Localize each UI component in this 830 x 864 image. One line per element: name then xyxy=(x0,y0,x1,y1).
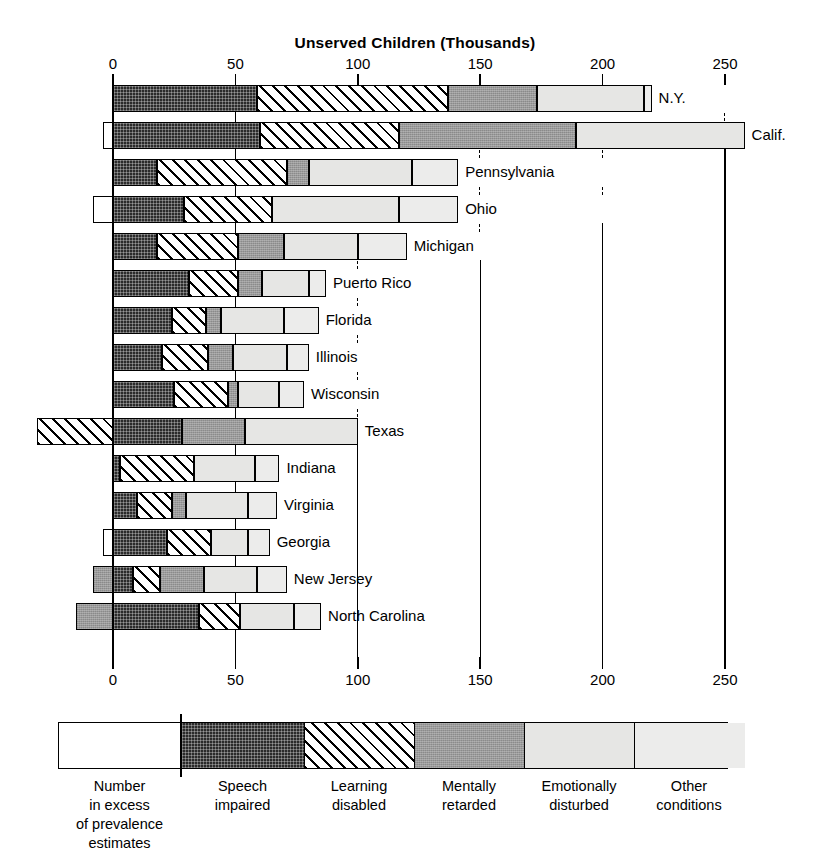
bar-segment-excess xyxy=(93,196,113,223)
bottom-axis-tick xyxy=(724,657,726,669)
bottom-axis-tick xyxy=(112,657,114,669)
legend-zero-divider xyxy=(180,714,182,777)
legend-label-speech: Speechimpaired xyxy=(181,777,304,815)
bar-segment-speech-impaired xyxy=(113,529,167,556)
bar-segment-other-conditions xyxy=(257,566,286,593)
bar-segment-learning-disabled xyxy=(199,603,241,630)
bar-row xyxy=(0,566,830,593)
bar-segment-speech-impaired xyxy=(113,122,260,149)
legend-label-other: Otherconditions xyxy=(634,777,744,815)
bar-segment-speech-impaired xyxy=(113,381,174,408)
gridline-dash xyxy=(479,150,480,158)
bar-segment-speech-impaired xyxy=(113,159,157,186)
gridline-dash xyxy=(602,187,603,195)
bar-segment-mentally-retarded xyxy=(206,307,221,334)
bottom-axis-tick xyxy=(357,657,359,669)
bar-segment-speech-impaired xyxy=(113,196,184,223)
legend-label-line: of prevalence xyxy=(58,815,181,834)
bar-segment-emotionally-disturbed xyxy=(537,85,645,112)
bar-segment-learning-disabled xyxy=(167,529,211,556)
top-axis-tick-label: 50 xyxy=(227,55,244,72)
legend-label-line: impaired xyxy=(181,796,304,815)
bar-segment-speech-impaired xyxy=(113,85,257,112)
top-axis-tick-label: 150 xyxy=(468,55,493,72)
bar-row xyxy=(0,85,830,112)
bar-segment-emotionally-disturbed xyxy=(576,122,745,149)
bar-segment-other-conditions xyxy=(644,85,651,112)
bar-segment-learning-disabled xyxy=(172,307,206,334)
bar-segment-mentally-retarded xyxy=(238,233,285,260)
top-axis-tick-label: 0 xyxy=(109,55,117,72)
top-axis-tick-label: 100 xyxy=(345,55,370,72)
bottom-axis-tick-label: 150 xyxy=(468,671,493,688)
gridline-dash xyxy=(357,261,358,269)
legend-swatch-mental xyxy=(415,723,525,768)
bar-row xyxy=(0,122,830,149)
bar-segment-mentally-retarded xyxy=(238,270,262,297)
bar-segment-excess xyxy=(103,529,113,556)
bar-segment-mentally-retarded xyxy=(208,344,232,371)
legend-label-line: retarded xyxy=(414,796,524,815)
bottom-axis-tick-label: 200 xyxy=(590,671,615,688)
bar-segment-emotionally-disturbed xyxy=(194,455,255,482)
gridline-dash xyxy=(357,372,358,380)
bar-row-label: Calif. xyxy=(752,126,786,143)
bar-segment-emotionally-disturbed xyxy=(186,492,247,519)
bar-segment-speech-impaired xyxy=(113,455,120,482)
bar-segment-emotionally-disturbed xyxy=(211,529,248,556)
legend-label-line: Mentally xyxy=(414,777,524,796)
bar-segment-emotionally-disturbed xyxy=(238,381,280,408)
legend-label-line: Emotionally xyxy=(524,777,634,796)
bar-segment-learning-disabled xyxy=(157,159,287,186)
top-axis-tick xyxy=(479,74,481,85)
bar-segment-mentally-retarded xyxy=(182,418,246,445)
bar-segment-other-conditions xyxy=(279,381,303,408)
bar-segment-learning-disabled xyxy=(184,196,272,223)
bar-segment-other-conditions xyxy=(287,344,309,371)
bar-segment-learning-disabled xyxy=(133,566,160,593)
bar-segment-emotionally-disturbed xyxy=(221,307,285,334)
bottom-axis-tick-label: 0 xyxy=(109,671,117,688)
bar-segment-learning-disabled xyxy=(260,122,400,149)
gridline-dash xyxy=(602,150,603,158)
bar-segment-learning-disabled xyxy=(120,455,193,482)
legend-swatch-emotional xyxy=(525,723,635,768)
bar-row-label: North Carolina xyxy=(328,607,425,624)
bar-segment-other-conditions xyxy=(358,233,407,260)
bar-segment-learning-disabled xyxy=(189,270,238,297)
gridline-dash xyxy=(724,113,725,121)
bar-row xyxy=(0,529,830,556)
bar-row xyxy=(0,270,830,297)
gridline-dash xyxy=(479,224,480,232)
bar-segment-speech-impaired xyxy=(113,233,157,260)
bar-row-label: N.Y. xyxy=(659,89,686,106)
bar-segment-emotionally-disturbed xyxy=(204,566,258,593)
bar-segment-emotionally-disturbed xyxy=(262,270,309,297)
bar-segment-mentally-retarded xyxy=(399,122,575,149)
bar-segment-mentally-retarded xyxy=(172,492,187,519)
legend-swatch-bar xyxy=(58,722,728,769)
bar-segment-other-conditions xyxy=(248,492,277,519)
bar-segment-other-conditions xyxy=(399,196,458,223)
gridline-dash xyxy=(479,187,480,195)
legend-label-mental: Mentallyretarded xyxy=(414,777,524,815)
bar-row-label: Puerto Rico xyxy=(333,274,411,291)
legend-label-line: in excess xyxy=(58,796,181,815)
bar-row xyxy=(0,196,830,223)
bottom-axis-tick xyxy=(235,657,237,669)
legend-label-line: estimates xyxy=(58,834,181,853)
bar-segment-mentally-retarded xyxy=(287,159,309,186)
bar-segment-speech-impaired xyxy=(113,270,189,297)
legend-swatch-learning xyxy=(305,723,415,768)
legend-label-learning: Learningdisabled xyxy=(304,777,414,815)
bar-segment-mentally-retarded xyxy=(160,566,204,593)
legend-label-line: conditions xyxy=(634,796,744,815)
legend-swatch-speech xyxy=(182,723,305,768)
bar-row-label: Indiana xyxy=(286,459,335,476)
bar-row-label: Pennsylvania xyxy=(465,163,554,180)
bar-segment-learning-disabled xyxy=(174,381,228,408)
legend-label-line: disturbed xyxy=(524,796,634,815)
bar-segment-other-conditions xyxy=(309,270,326,297)
top-axis-tick-label: 200 xyxy=(590,55,615,72)
bar-row-label: New Jersey xyxy=(294,570,372,587)
